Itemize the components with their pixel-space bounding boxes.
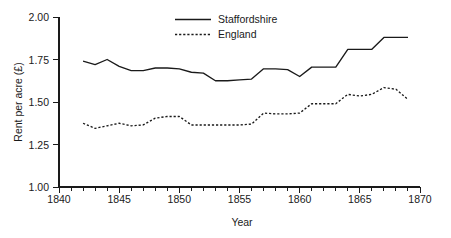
x-tick-label-1855: 1855 [228,193,252,205]
x-tick-label-1860: 1860 [288,193,312,205]
legend-label-staffordshire: Staffordshire [218,13,277,25]
chart-legend: Staffordshire England [175,13,277,40]
series-line-england [83,88,408,129]
legend-label-england: England [218,28,257,40]
y-tick-label-2-00: 2.00 [29,11,50,23]
x-axis-tick-labels: 1840 1845 1850 1855 1860 1865 1870 [47,193,432,205]
y-axis-tick-labels: 2.00 1.75 1.50 1.25 1.00 [29,11,50,193]
y-axis-ticks [53,17,59,187]
rent-per-acre-line-chart: 2.00 1.75 1.50 1.25 1.00 1840 1845 1850 … [0,0,451,238]
x-tick-label-1845: 1845 [108,193,132,205]
y-tick-label-1-75: 1.75 [29,54,50,66]
y-axis-title: Rent per acre (£) [12,62,24,141]
y-tick-label-1-25: 1.25 [29,139,50,151]
x-tick-label-1840: 1840 [47,193,71,205]
x-tick-label-1850: 1850 [168,193,192,205]
y-tick-label-1-50: 1.50 [29,96,50,108]
x-tick-label-1865: 1865 [348,193,372,205]
y-tick-label-1-00: 1.00 [29,181,50,193]
x-tick-label-1870: 1870 [408,193,432,205]
series-line-staffordshire [83,37,408,80]
chart-container: 2.00 1.75 1.50 1.25 1.00 1840 1845 1850 … [0,0,451,238]
x-axis-title: Year [231,216,253,228]
